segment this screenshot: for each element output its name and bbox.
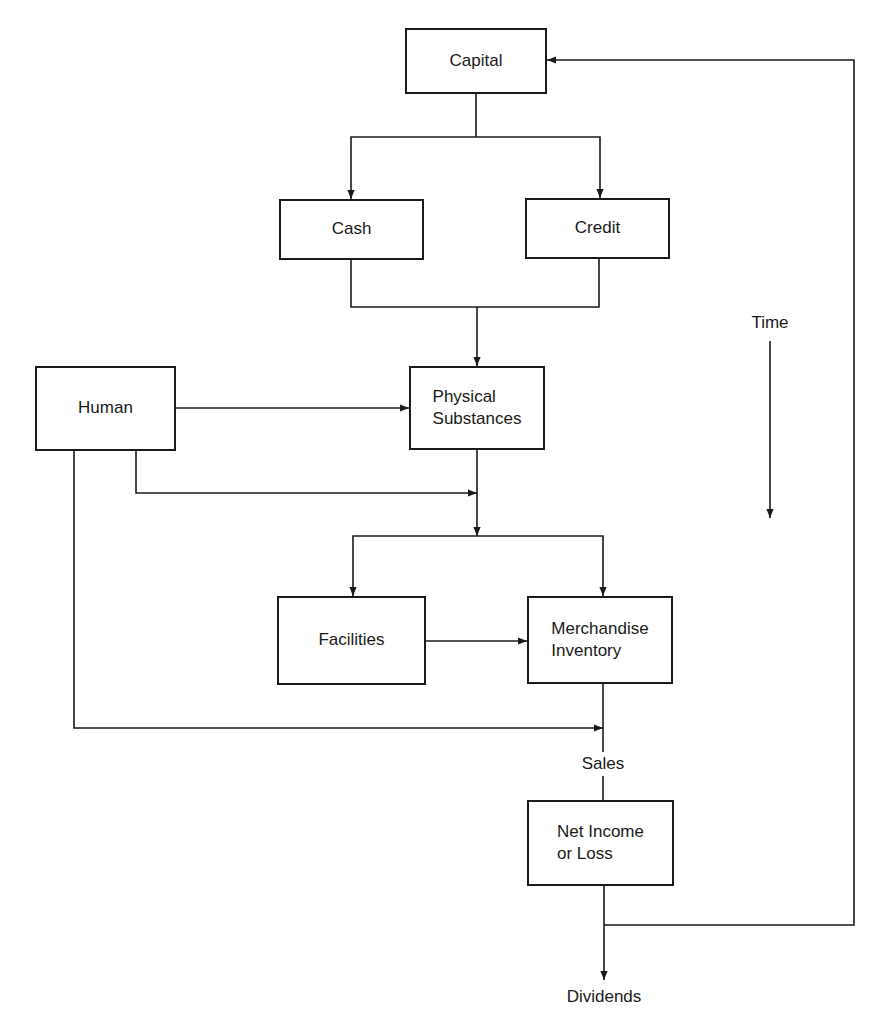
node-net-income-line1: Net Income — [557, 822, 644, 841]
node-merchandise-line1: Merchandise — [551, 619, 648, 638]
edge-to-facilities — [353, 536, 477, 596]
node-credit: Credit — [525, 198, 670, 259]
edge-feedback-capital — [547, 60, 854, 925]
node-human: Human — [35, 366, 176, 451]
node-physical-line1: Physical — [433, 387, 496, 406]
node-human-label: Human — [78, 397, 133, 419]
edge-human-physical-output — [136, 451, 477, 493]
node-merchandise-line2: Inventory — [551, 641, 621, 660]
node-net-income-label: Net Income or Loss — [557, 821, 644, 865]
node-capital: Capital — [405, 28, 547, 94]
connector-lines — [0, 0, 886, 1019]
node-credit-label: Credit — [575, 217, 620, 239]
label-time: Time — [749, 313, 790, 333]
node-physical-substances: Physical Substances — [409, 366, 545, 450]
node-merchandise-inventory-label: Merchandise Inventory — [551, 618, 648, 662]
node-facilities-label: Facilities — [318, 629, 384, 651]
node-capital-label: Capital — [450, 50, 503, 72]
node-net-income-line2: or Loss — [557, 844, 613, 863]
node-physical-substances-label: Physical Substances — [433, 386, 522, 430]
node-physical-line2: Substances — [433, 409, 522, 428]
node-cash: Cash — [279, 199, 424, 260]
edge-to-credit — [476, 137, 600, 198]
edge-cash-merge — [351, 259, 599, 307]
label-sales: Sales — [580, 754, 627, 774]
node-net-income: Net Income or Loss — [527, 800, 674, 886]
label-dividends: Dividends — [565, 987, 644, 1007]
edge-to-cash — [351, 137, 476, 199]
edge-to-merchandise — [477, 536, 603, 596]
node-merchandise-inventory: Merchandise Inventory — [527, 596, 673, 684]
node-cash-label: Cash — [332, 218, 372, 240]
node-facilities: Facilities — [277, 596, 426, 685]
